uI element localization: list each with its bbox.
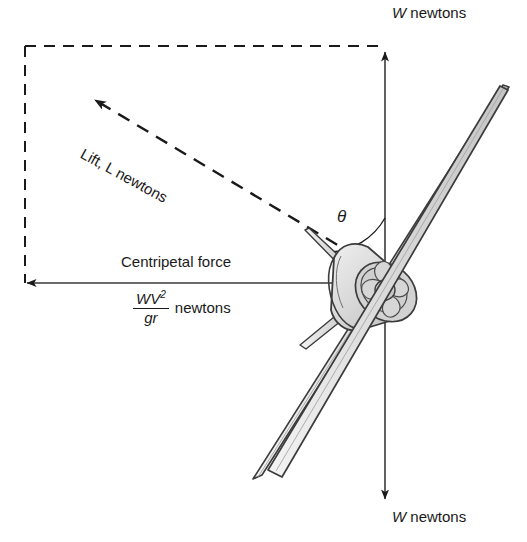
formula-numerator: WV2 (133, 290, 169, 308)
formula-numerator-text: WV (136, 290, 160, 307)
wing-front (268, 86, 508, 477)
weight-top-symbol: W (392, 4, 406, 21)
formula-units: newtons (175, 299, 231, 316)
weight-top-label: W newtons (392, 4, 466, 21)
formula-denominator: gr (141, 309, 160, 326)
formula-exponent: 2 (160, 289, 166, 300)
aircraft (253, 85, 509, 479)
diagram-canvas (0, 0, 527, 542)
formula-fraction: WV2 gr (133, 290, 169, 326)
weight-bottom-symbol: W (392, 508, 406, 525)
weight-top-units: newtons (410, 4, 466, 21)
centripetal-force-formula: WV2 gr newtons (133, 290, 231, 326)
bank-angle-label: θ (337, 207, 346, 227)
force-diagram: W newtons W newtons Centripetal force WV… (0, 0, 527, 542)
centripetal-force-label: Centripetal force (121, 253, 231, 270)
weight-bottom-units: newtons (410, 508, 466, 525)
weight-bottom-label: W newtons (392, 508, 466, 525)
